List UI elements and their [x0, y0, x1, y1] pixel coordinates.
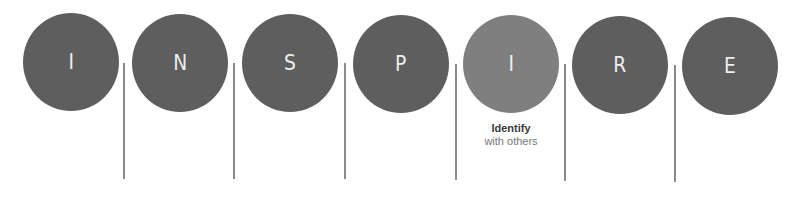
circle-n: N: [132, 14, 228, 112]
circle-letter: R: [613, 54, 626, 76]
circle-letter: E: [724, 55, 736, 77]
circle-letter: P: [395, 53, 406, 75]
circle-e: E: [682, 17, 778, 115]
highlight-caption: Identify with others: [460, 122, 562, 148]
circle-letter: I: [508, 53, 514, 75]
divider-line: [344, 63, 346, 179]
circle-p: P: [353, 15, 449, 113]
circle-letter: S: [284, 52, 296, 74]
circle-i-highlighted: I: [463, 15, 559, 113]
divider-line: [123, 63, 125, 179]
divider-line: [455, 64, 457, 180]
caption-title: Identify: [460, 122, 562, 135]
divider-line: [233, 63, 235, 179]
circle-r: R: [572, 16, 668, 114]
divider-line: [674, 65, 676, 182]
circle-letter: N: [173, 52, 187, 74]
divider-line: [564, 64, 566, 181]
circle-i: I: [23, 13, 119, 111]
circle-s: S: [242, 14, 338, 112]
caption-subtitle: with others: [460, 135, 562, 148]
circle-letter: I: [68, 51, 74, 73]
